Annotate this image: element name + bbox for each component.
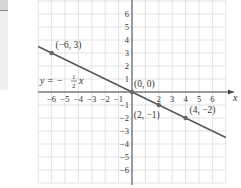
- x-tick-label: −5: [60, 94, 69, 104]
- y-tick-label: −2: [120, 113, 129, 123]
- equation-lhs: y = −: [39, 75, 63, 86]
- x-tick-label: 3: [170, 94, 174, 104]
- x-tick-label: −4: [74, 94, 84, 104]
- x-tick-label: −3: [87, 94, 96, 104]
- y-tick-label: 1: [125, 74, 129, 84]
- y-tick-label: 5: [125, 22, 129, 32]
- y-tick-label: −6: [120, 165, 129, 175]
- point-label: (−6, 3): [56, 40, 82, 51]
- point-marker: [49, 51, 53, 55]
- x-tick-label: 2: [157, 94, 161, 104]
- equation-variable: x: [78, 75, 84, 86]
- equation-label: y = − 1 2 x: [39, 73, 84, 90]
- x-tick-label: −6: [47, 94, 56, 104]
- x-tick-label: 5: [197, 94, 201, 104]
- equation-numerator: 1: [72, 73, 76, 81]
- x-tick-label: 4: [183, 94, 188, 104]
- point-marker: [183, 116, 187, 120]
- point-label: (4, −2): [190, 105, 216, 116]
- y-tick-label: 3: [125, 48, 129, 58]
- point-marker: [157, 103, 161, 107]
- y-tick-label: 2: [125, 61, 129, 71]
- x-tick-label: 6: [210, 94, 214, 104]
- point-label: (2, −1): [134, 110, 160, 121]
- point-label: (0, 0): [134, 79, 155, 90]
- point-marker: [130, 90, 134, 94]
- y-tick-label: 6: [125, 9, 129, 19]
- x-axis-label: x: [232, 92, 238, 103]
- y-tick-label: −5: [120, 152, 129, 162]
- equation-denominator: 2: [72, 82, 76, 90]
- y-tick-label: −3: [120, 126, 129, 136]
- x-tick-label: −2: [101, 94, 110, 104]
- y-tick-label: −4: [120, 139, 130, 149]
- y-tick-label: −1: [120, 100, 129, 110]
- coordinate-graph: −6−5−4−3−2−123456654321−1−2−3−4−5−6 (−6,…: [0, 0, 241, 188]
